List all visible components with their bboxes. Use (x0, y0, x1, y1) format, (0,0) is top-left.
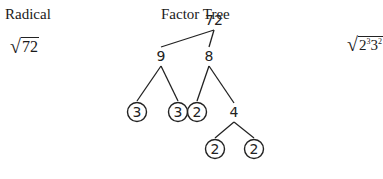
tree-edge (215, 122, 234, 138)
tree-edge (137, 66, 161, 101)
tree-edge (209, 66, 234, 103)
tree-node-2: 2 (206, 140, 225, 159)
tree-edge (197, 66, 209, 101)
tree-node-72: 72 (205, 12, 223, 28)
tree-node-4: 4 (230, 104, 239, 120)
tree-node-2: 2 (188, 103, 207, 122)
tree-node-3: 3 (169, 103, 188, 122)
node-label: 4 (230, 104, 239, 120)
tree-node-3: 3 (128, 103, 147, 122)
tree-node-9: 9 (157, 48, 166, 64)
node-label: 2 (211, 141, 220, 157)
tree-edge (161, 66, 178, 101)
node-label: 2 (193, 104, 202, 120)
tree-node-2: 2 (245, 140, 264, 159)
node-label: 8 (205, 48, 214, 64)
tree-edge (161, 30, 214, 47)
tree-edge (234, 122, 254, 138)
node-label: 72 (205, 12, 223, 28)
node-label: 9 (157, 48, 166, 64)
node-label: 2 (250, 141, 259, 157)
node-label: 3 (133, 104, 142, 120)
exponent-2: 2 (378, 37, 382, 46)
tree-node-8: 8 (205, 48, 214, 64)
tree-edge (209, 30, 214, 47)
node-label: 3 (174, 104, 183, 120)
